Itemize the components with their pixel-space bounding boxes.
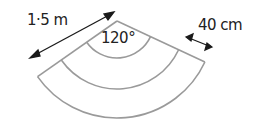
outer-arc: [38, 62, 210, 125]
path-width-label: 40 cm: [198, 16, 242, 34]
outer-length-label: 1·5 m: [27, 11, 68, 29]
angle-label: 120°: [101, 29, 135, 47]
width-arrow: [186, 34, 212, 50]
middle-arc: [61, 50, 181, 94]
